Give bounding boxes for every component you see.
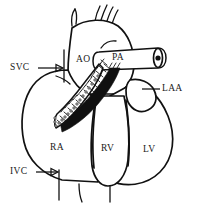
label-pa: PA <box>112 52 124 62</box>
left-atrial-appendage-body <box>126 79 156 111</box>
subclavian-branch-icon <box>112 10 118 24</box>
carotid-branch-right-icon <box>107 7 113 21</box>
label-rv: RV <box>101 143 114 153</box>
label-ivc: IVC <box>10 166 27 176</box>
label-laa: LAA <box>162 83 183 93</box>
label-ra: RA <box>50 142 64 152</box>
lower-vessel-stems <box>79 184 110 202</box>
carotid-branch-mid-icon <box>101 5 107 20</box>
carotid-branch-left-icon <box>95 6 100 21</box>
heart-diagram-figure: SVC IVC AO PA LAA RA RV LV <box>0 0 201 204</box>
coronary-sinus-stem <box>79 184 82 202</box>
heart-anatomy-drawing: SVC IVC AO PA LAA RA RV LV <box>0 0 201 204</box>
left-atrial-appendage-outline <box>126 79 156 111</box>
label-svc: SVC <box>10 62 30 72</box>
right-ventricle-body <box>91 96 129 186</box>
pulmonary-artery-lumen-icon <box>155 55 160 60</box>
right-ventricle-outline <box>91 96 129 186</box>
label-ao: AO <box>76 54 90 64</box>
brachiocephalic-branch-icon <box>72 9 75 26</box>
brachiocephalic-branch-inner-icon <box>75 9 77 24</box>
label-lv: LV <box>143 144 156 154</box>
